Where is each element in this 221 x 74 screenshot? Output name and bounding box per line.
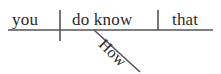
verb-word: do know xyxy=(72,11,132,28)
object-word: that xyxy=(172,11,198,28)
sentence-diagram: you do know that How xyxy=(0,0,221,74)
subject-word: you xyxy=(12,11,38,28)
